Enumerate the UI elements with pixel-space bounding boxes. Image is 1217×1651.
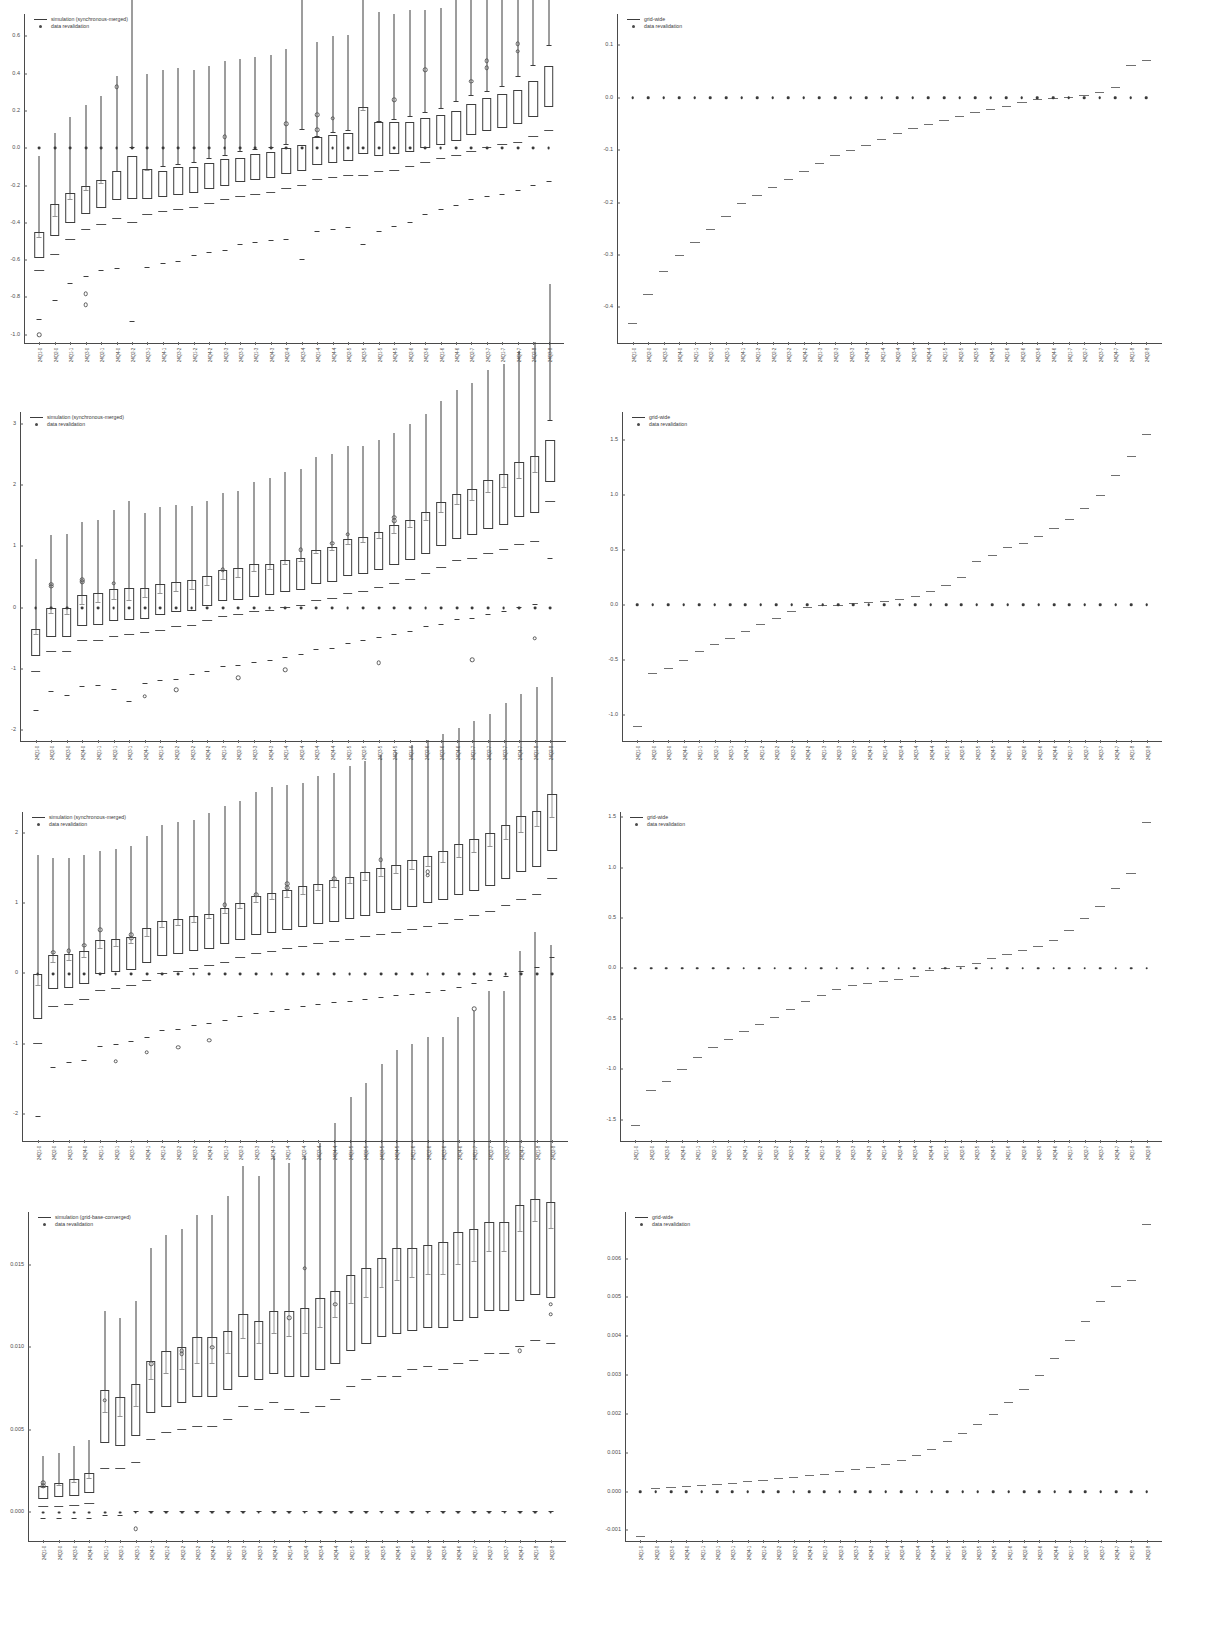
x-tick-label: 24Q1-8: [535, 1546, 540, 1560]
y-tick-label: -0.4: [604, 305, 617, 311]
y-tick-mark: [617, 202, 620, 203]
outlier-marker: [174, 688, 179, 693]
box-plot-item: [251, 14, 261, 344]
whisker-cap: [330, 132, 335, 133]
whisker-cap: [283, 657, 288, 658]
whisker: [489, 991, 490, 1252]
validation-marker: [883, 603, 886, 606]
whisker-cap: [127, 701, 132, 702]
median-line: [48, 1006, 58, 1007]
x-tick-mark: [710, 342, 711, 345]
x-tick-mark: [1039, 740, 1040, 743]
median-line: [192, 1426, 202, 1427]
validation-marker: [516, 147, 519, 150]
y-tick-label: 1.5: [608, 814, 620, 820]
line-segment: [1034, 536, 1043, 537]
line-segment: [861, 145, 870, 146]
x-tick-mark: [763, 1540, 764, 1543]
box: [377, 1258, 387, 1337]
x-tick-mark: [917, 1540, 918, 1543]
box-plot-item: [468, 412, 478, 742]
x-tick-label: 24Q1-6: [441, 348, 446, 362]
box: [528, 81, 538, 116]
whisker: [144, 513, 145, 599]
median-line: [285, 1409, 295, 1410]
x-tick-mark: [991, 342, 992, 345]
validation-marker: [667, 603, 670, 606]
x-tick-label: 24Q3-3: [254, 746, 259, 760]
box: [54, 1483, 64, 1498]
whisker: [473, 1011, 474, 1262]
box-plot-item: [115, 1212, 125, 1542]
validation-marker: [192, 147, 195, 150]
x-tick-label: 24Q1-3: [821, 1146, 826, 1160]
line-segment: [1019, 543, 1028, 544]
median-line: [131, 1462, 141, 1463]
line-segment: [972, 963, 981, 964]
box: [438, 1242, 448, 1328]
y-tick-mark: [620, 1119, 623, 1120]
whisker: [238, 491, 239, 578]
line-segment: [803, 607, 812, 608]
x-axis-spine: [622, 741, 1162, 742]
x-tick-mark: [728, 1140, 729, 1143]
validation-marker: [1021, 967, 1024, 970]
x-tick-mark: [761, 740, 762, 743]
y-tick-mark: [617, 45, 620, 46]
x-tick-mark: [851, 342, 852, 345]
y-tick-label: 0: [15, 971, 22, 977]
validation-marker: [442, 972, 445, 975]
whisker: [191, 506, 192, 590]
box-plot-item: [343, 412, 353, 742]
outlier-marker: [330, 541, 335, 546]
x-tick-mark: [1131, 1140, 1132, 1143]
line-segment: [1065, 519, 1074, 520]
median-line: [300, 1412, 310, 1413]
y-tick-label: 0.005: [607, 1295, 625, 1301]
validation-marker: [762, 1490, 765, 1493]
whisker-cap: [407, 222, 412, 223]
box-plot-item: [282, 14, 292, 344]
outlier-marker: [149, 1362, 154, 1367]
x-tick-label: 24Q2-3: [243, 1546, 248, 1560]
outlier-marker: [378, 857, 383, 862]
box-plot-item: [95, 812, 105, 1142]
box: [143, 169, 153, 199]
validation-marker: [868, 603, 871, 606]
box: [407, 860, 417, 907]
median-line: [392, 932, 402, 933]
line-segment: [910, 976, 919, 977]
y-tick-label: 0.5: [610, 547, 622, 553]
legend-dot-icon: [43, 1223, 46, 1226]
whisker: [425, 414, 426, 520]
x-tick-label: 24Q2-0: [653, 746, 658, 760]
whisker: [302, 783, 303, 895]
x-tick-mark: [776, 740, 777, 743]
validation-marker: [268, 606, 271, 609]
box-plot-item: [220, 812, 230, 1142]
validation-marker: [424, 147, 427, 150]
validation-marker: [223, 147, 226, 150]
legend-line-icon: [32, 817, 45, 818]
outlier-marker: [66, 949, 71, 954]
line-segment: [784, 179, 793, 180]
box: [115, 1397, 125, 1447]
outlier-marker: [283, 668, 288, 673]
validation-marker: [286, 972, 289, 975]
x-tick-mark: [855, 1540, 856, 1543]
x-tick-label: 24Q4-4: [932, 1546, 937, 1560]
x-tick-label: 24Q4-6: [456, 348, 461, 362]
line-segment: [957, 577, 966, 578]
validation-marker: [803, 97, 806, 100]
y-tick-mark: [22, 833, 25, 834]
whisker-cap: [546, 45, 551, 46]
validation-marker: [927, 97, 930, 100]
whisker: [224, 806, 225, 913]
validation-marker: [57, 1511, 60, 1514]
median-line: [223, 1419, 233, 1420]
whisker-cap: [191, 1025, 196, 1026]
line-segment: [1142, 1224, 1151, 1225]
validation-marker: [729, 603, 732, 606]
whisker-cap: [222, 250, 227, 251]
validation-marker: [518, 606, 521, 609]
